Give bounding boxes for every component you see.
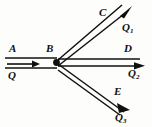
label-node-d: D <box>124 43 132 54</box>
label-flow-q2-base: Q <box>128 67 136 79</box>
branch-C-lower-wall <box>58 14 124 66</box>
label-flow-q1-base: Q <box>122 21 130 33</box>
branch-E-lower-wall <box>58 70 120 115</box>
junction-node-dot <box>53 59 60 66</box>
label-flow-q1-subscript: 1 <box>130 27 134 35</box>
label-flow-q3: Q3 <box>115 112 126 123</box>
flow-junction-diagram: A B C D E Q Q1 Q2 Q3 <box>0 0 152 127</box>
branch-C-flow-arrow-head <box>120 6 132 19</box>
diagram-canvas <box>0 0 152 127</box>
branch-C-upper-wall <box>58 5 122 60</box>
label-flow-q3-subscript: 3 <box>123 117 127 125</box>
inlet-channel-AB <box>5 58 57 68</box>
label-node-a: A <box>9 43 16 54</box>
label-flow-q3-base: Q <box>115 111 123 123</box>
label-node-c: C <box>99 7 106 18</box>
label-node-e: E <box>114 86 121 97</box>
label-flow-q2-subscript: 2 <box>136 73 140 81</box>
branch-channel-C <box>58 5 132 66</box>
label-flow-q1: Q1 <box>122 22 133 33</box>
label-flow-q-inlet: Q <box>8 70 16 81</box>
label-node-b: B <box>46 43 53 54</box>
inlet-flow-arrow-head <box>32 61 40 68</box>
label-flow-q2: Q2 <box>128 68 139 79</box>
